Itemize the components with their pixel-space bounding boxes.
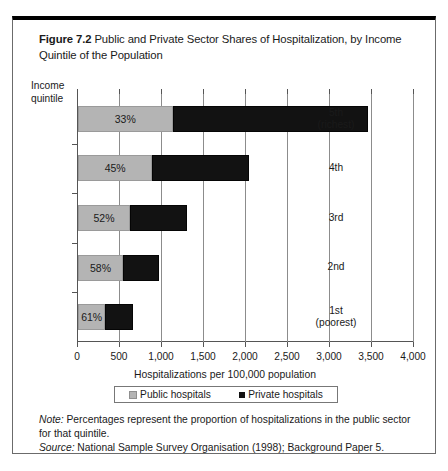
legend-item-public: Public hospitals (129, 389, 211, 400)
tick-mark-bottom (119, 342, 120, 347)
tick-mark-bottom (77, 342, 78, 347)
tick-mark-left (72, 292, 77, 293)
source-line: Source: National Sample Survey Organisat… (39, 441, 419, 455)
x-tick-label: 1,000 (141, 351, 181, 362)
bar-data-label: 33% (78, 106, 173, 132)
x-tick-label: 2,500 (267, 351, 307, 362)
tick-mark-top (413, 89, 414, 94)
x-tick-label: 1,500 (183, 351, 223, 362)
category-label: 4th (307, 162, 365, 174)
tick-mark-left (72, 243, 77, 244)
tick-mark-top (203, 89, 204, 94)
legend-swatch-private-icon (239, 392, 245, 398)
x-tick-label: 0 (57, 351, 97, 362)
x-tick-label: 2,000 (225, 351, 265, 362)
category-label: 5th (richest) (307, 107, 365, 132)
gridline (371, 94, 372, 342)
category-label: 2nd (307, 261, 365, 273)
source-text: National Sample Survey Organisation (199… (75, 442, 385, 453)
footnotes: Note: Percentages represent the proporti… (39, 413, 419, 455)
bar-data-label: 45% (78, 155, 152, 181)
bar-data-label: 61% (78, 304, 105, 330)
figure-container: Figure 7.2 Public and Private Sector Sha… (12, 16, 436, 454)
tick-mark-left (72, 193, 77, 194)
bar-segment-private (123, 255, 159, 281)
x-tick-label: 500 (99, 351, 139, 362)
note-line: Note: Percentages represent the proporti… (39, 413, 419, 440)
note-lead: Note: (39, 414, 64, 425)
tick-mark-bottom (245, 342, 246, 347)
note-text: Percentages represent the proportion of … (39, 414, 411, 439)
bar-data-label: 58% (78, 255, 123, 281)
tick-mark-bottom (413, 342, 414, 347)
category-label: 1st (poorest) (307, 305, 365, 330)
tick-mark-bottom (287, 342, 288, 347)
bar-segment-private (152, 155, 249, 181)
tick-mark-top (287, 89, 288, 94)
tick-mark-top (77, 89, 78, 94)
tick-mark-top (371, 89, 372, 94)
gridline (413, 94, 414, 342)
tick-mark-bottom (203, 342, 204, 347)
x-axis-title: Hospitalizations per 100,000 population (13, 369, 437, 380)
x-tick-label: 3,000 (309, 351, 349, 362)
x-tick-label: 4,000 (393, 351, 433, 362)
category-label: 3rd (307, 212, 365, 224)
figure-title-text: Public and Private Sector Shares of Hosp… (39, 33, 402, 61)
x-tick-label: 3,500 (351, 351, 391, 362)
tick-mark-left (72, 144, 77, 145)
tick-mark-bottom (371, 342, 372, 347)
legend-item-private: Private hospitals (239, 389, 323, 400)
figure-title: Figure 7.2 Public and Private Sector Sha… (39, 32, 411, 63)
chart-legend: Public hospitals Private hospitals (114, 386, 338, 403)
tick-mark-top (245, 89, 246, 94)
bar-segment-private (130, 205, 187, 231)
bar-segment-private (105, 304, 133, 330)
tick-mark-top (119, 89, 120, 94)
bar-data-label: 52% (78, 205, 130, 231)
legend-label-private: Private hospitals (248, 389, 323, 400)
legend-swatch-public-icon (129, 391, 137, 399)
y-axis-title: Income quintile (31, 80, 64, 105)
tick-mark-bottom (161, 342, 162, 347)
figure-number: Figure 7.2 (39, 33, 91, 45)
legend-label-public: Public hospitals (140, 389, 211, 400)
tick-mark-top (329, 89, 330, 94)
tick-mark-top (161, 89, 162, 94)
tick-mark-bottom (329, 342, 330, 347)
source-lead: Source: (39, 442, 75, 453)
